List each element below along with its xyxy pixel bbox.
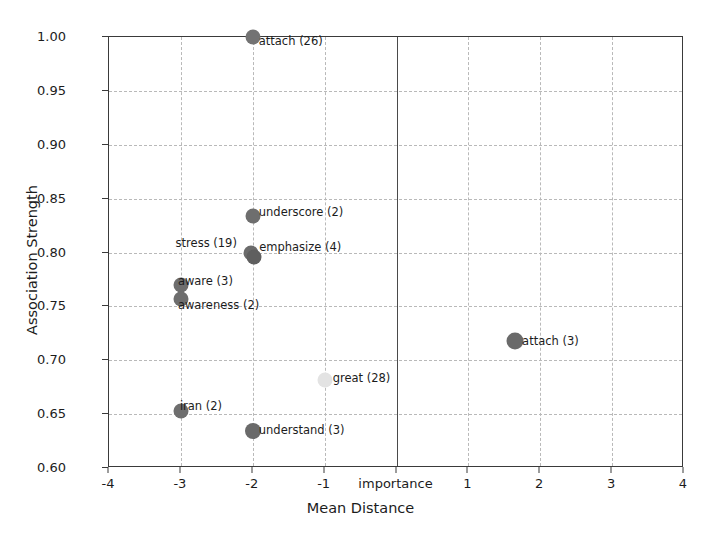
y-axis-label-container: Association Strength [10, 0, 40, 503]
x-axis-tick [251, 467, 252, 473]
scatter-plot-figure: Association Strength -4-3-2-1importance1… [0, 0, 721, 539]
gridline-vertical [612, 37, 613, 466]
y-axis-tick-label: 0.75 [37, 298, 66, 313]
y-axis-tick-label: 0.90 [37, 136, 66, 151]
y-axis-label: Association Strength [24, 80, 40, 440]
y-axis-tick-label: 0.95 [37, 82, 66, 97]
scatter-point-label: stress (19) [176, 236, 237, 250]
x-axis-tick [179, 467, 180, 473]
x-axis-tick [539, 467, 540, 473]
scatter-point-label: iran (2) [180, 399, 222, 413]
x-axis-tick-label: 3 [607, 476, 615, 491]
scatter-point-label: aware (3) [178, 274, 233, 288]
gridline-horizontal [109, 91, 682, 92]
gridline-horizontal [109, 199, 682, 200]
x-axis-tick-label: -4 [102, 476, 115, 491]
x-axis-tick [611, 467, 612, 473]
scatter-point-label: understand (3) [259, 423, 345, 437]
scatter-point-label: attach (3) [522, 334, 579, 348]
x-axis-tick-label: -3 [173, 476, 186, 491]
scatter-point-label: underscore (2) [259, 205, 344, 219]
x-axis-tick-label: 4 [679, 476, 687, 491]
y-axis-tick-label: 0.80 [37, 244, 66, 259]
gridline-horizontal [109, 360, 682, 361]
scatter-point-label: great (28) [333, 371, 391, 385]
x-axis-tick-label: 1 [463, 476, 471, 491]
y-axis-tick-label: 0.60 [37, 460, 66, 475]
gridline-horizontal [109, 414, 682, 415]
scatter-point-label: awareness (2) [178, 298, 259, 312]
y-axis-tick [102, 467, 108, 468]
x-axis-label: Mean Distance [0, 500, 721, 516]
gridline-horizontal [109, 253, 682, 254]
scatter-point-label: attach (26) [259, 34, 323, 48]
x-axis-tick [323, 467, 324, 473]
scatter-point[interactable] [507, 332, 524, 349]
x-axis-tick [467, 467, 468, 473]
gridline-vertical [468, 37, 469, 466]
x-axis-tick-label: importance [358, 476, 432, 491]
gridline-vertical [540, 37, 541, 466]
gridline-horizontal [109, 145, 682, 146]
x-axis-tick [395, 467, 396, 473]
y-axis-tick-label: 0.85 [37, 190, 66, 205]
x-axis-tick-label: -2 [245, 476, 258, 491]
x-axis-tick-label: -1 [317, 476, 330, 491]
plot-area: attach (26)underscore (2)stress (19)emph… [108, 36, 683, 467]
scatter-point[interactable] [317, 372, 332, 387]
zero-reference-line [397, 37, 398, 466]
y-axis-tick-label: 0.70 [37, 352, 66, 367]
y-axis-tick-label: 1.00 [37, 29, 66, 44]
x-axis-tick [683, 467, 684, 473]
scatter-point-label: emphasize (4) [259, 240, 341, 254]
x-axis-tick-label: 2 [535, 476, 543, 491]
y-axis-tick-label: 0.65 [37, 406, 66, 421]
